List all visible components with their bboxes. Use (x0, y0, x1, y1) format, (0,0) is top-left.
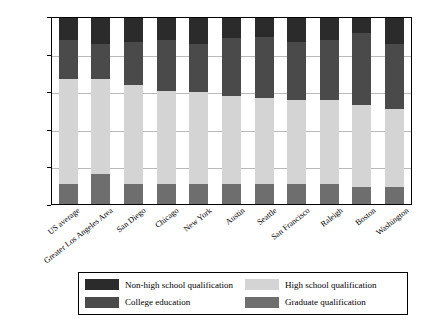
bar-segment (287, 42, 306, 100)
bar-stack (352, 18, 371, 204)
chart-figure: Percentage of population (%) 02040608010… (0, 0, 428, 328)
bar-stack (189, 18, 208, 204)
bar-segment (255, 98, 274, 184)
legend-item-non-high-school: Non-high school qualification (85, 279, 241, 290)
bar-stack (385, 18, 404, 204)
bar-segment (222, 38, 241, 96)
legend-swatch-graduate (245, 297, 279, 308)
bar-segment (287, 184, 306, 204)
bar-segment (59, 18, 78, 40)
bar-segment (320, 100, 339, 184)
bar-segment (287, 100, 306, 184)
bar-segment (189, 184, 208, 204)
bar-segment (222, 184, 241, 204)
plot-area (51, 17, 412, 205)
legend-label-college: College education (125, 297, 190, 307)
bar-stack (222, 18, 241, 204)
legend-item-high-school: High school qualification (245, 279, 401, 290)
bar-stack (91, 18, 110, 204)
bar-stack (59, 18, 78, 204)
x-axis-label-group: US averageGreater Los Angeles AreaSan Di… (51, 206, 412, 266)
bar-segment (124, 18, 143, 42)
bar-segment (385, 18, 404, 44)
bar-segment (157, 91, 176, 184)
bar-segment (59, 79, 78, 183)
bar-segment (157, 40, 176, 90)
bar-segment (157, 18, 176, 40)
bar-segment (91, 174, 110, 204)
bar-stack (157, 18, 176, 204)
bar-segment (124, 42, 143, 85)
bar-stack (320, 18, 339, 204)
bar-segment (189, 44, 208, 92)
legend-label-high-school: High school qualification (285, 280, 376, 290)
legend-swatch-college (85, 297, 119, 308)
bar-segment (124, 184, 143, 204)
bar-segment (59, 184, 78, 204)
bar-segment (320, 18, 339, 40)
bar-segment (255, 37, 274, 98)
bar-segment (385, 109, 404, 187)
bar-segment (352, 187, 371, 204)
legend-item-college: College education (85, 297, 241, 308)
bar-segment (124, 85, 143, 184)
bar-segment (222, 18, 241, 38)
chart-legend: Non-high school qualification High schoo… (78, 272, 408, 315)
bar-segment (352, 18, 371, 33)
bar-stack (255, 18, 274, 204)
bar-segment (352, 105, 371, 187)
bar-group (52, 18, 411, 204)
bar-segment (91, 18, 110, 44)
legend-swatch-non-high-school (85, 279, 119, 290)
bar-segment (352, 33, 371, 106)
bar-segment (255, 18, 274, 37)
legend-label-graduate: Graduate qualification (285, 297, 366, 307)
bar-segment (287, 18, 306, 42)
legend-swatch-high-school (245, 279, 279, 290)
bar-segment (320, 184, 339, 204)
bar-segment (59, 40, 78, 79)
bar-segment (320, 40, 339, 100)
bar-segment (385, 187, 404, 204)
bar-segment (189, 92, 208, 183)
bar-segment (189, 18, 208, 44)
bar-segment (385, 44, 404, 109)
bar-segment (157, 184, 176, 204)
bar-stack (124, 18, 143, 204)
legend-item-graduate: Graduate qualification (245, 297, 401, 308)
bar-segment (255, 184, 274, 204)
bar-segment (91, 79, 110, 174)
legend-label-non-high-school: Non-high school qualification (125, 280, 233, 290)
bar-segment (91, 44, 110, 79)
bar-segment (222, 96, 241, 183)
bar-stack (287, 18, 306, 204)
